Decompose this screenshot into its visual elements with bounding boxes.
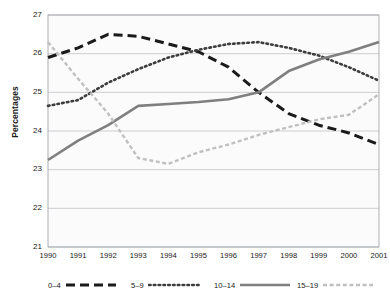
x-tick-1997: 1997 (242, 251, 276, 260)
legend-swatch-dashed (65, 280, 117, 290)
y-tick-26: 26 (20, 48, 42, 57)
y-tick-27: 27 (20, 10, 42, 19)
y-tick-21: 21 (20, 242, 42, 251)
y-tick-22: 22 (20, 203, 42, 212)
legend-entry-0-4[interactable]: 0–4 (48, 275, 131, 295)
legend-label: 0–4 (48, 281, 65, 290)
x-tick-1994: 1994 (151, 251, 185, 260)
y-tick-24: 24 (20, 126, 42, 135)
line-chart-figure: Percentages 21222324252627 1990199119921… (0, 0, 390, 301)
x-tick-1998: 1998 (272, 251, 306, 260)
chart-legend: 0–45–910–1415–19 (48, 275, 380, 295)
x-tick-2000: 2000 (332, 251, 366, 260)
legend-swatch-dotted (148, 280, 200, 290)
y-tick-23: 23 (20, 164, 42, 173)
x-tick-1995: 1995 (181, 251, 215, 260)
legend-label: 5–9 (131, 281, 148, 290)
y-tick-25: 25 (20, 87, 42, 96)
legend-label: 15–19 (297, 281, 322, 290)
x-tick-1992: 1992 (91, 251, 125, 260)
legend-entry-15-19[interactable]: 15–19 (297, 275, 380, 295)
legend-swatch-solid (239, 280, 291, 290)
legend-entry-5-9[interactable]: 5–9 (131, 275, 214, 295)
x-tick-1999: 1999 (302, 251, 336, 260)
x-tick-1991: 1991 (61, 251, 95, 260)
legend-entry-10-14[interactable]: 10–14 (214, 275, 297, 295)
x-tick-2001: 2001 (362, 251, 390, 260)
legend-label: 10–14 (214, 281, 239, 290)
x-tick-1993: 1993 (121, 251, 155, 260)
x-tick-1996: 1996 (212, 251, 246, 260)
legend-swatch-light-dashed (322, 280, 374, 290)
x-tick-1990: 1990 (31, 251, 65, 260)
